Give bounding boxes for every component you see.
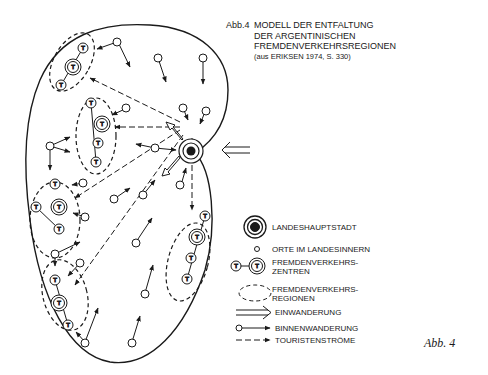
interior-towns bbox=[46, 38, 210, 347]
legend-label-internal-migration: BINNENWANDERUNG bbox=[275, 324, 358, 333]
legend-label-towns: ORTE IM LANDESINNERN bbox=[272, 245, 370, 254]
title-line-2: DER ARGENTINISCHEN bbox=[254, 31, 396, 42]
legend-symbols bbox=[231, 216, 271, 340]
title-source: (aus ERIKSEN 1974, S. 330) bbox=[254, 52, 396, 63]
legend-label-capital: LANDESHAUPTSTADT bbox=[272, 223, 357, 232]
legend-label-centres: FREMDENVERKEHRS- ZENTREN bbox=[272, 258, 358, 276]
legend-label-immigration: EINWANDERUNG bbox=[275, 308, 341, 317]
figure-number: Abb.4 bbox=[226, 20, 250, 31]
capital-city bbox=[179, 139, 203, 163]
legend-label-tourist-flows: TOURISTENSTRÖME bbox=[275, 336, 355, 345]
figure-caption: Abb. 4 bbox=[424, 336, 455, 351]
title-line-3: FREMDENVERKEHRSREGIONEN bbox=[254, 41, 396, 52]
tourist-flows bbox=[75, 78, 192, 285]
country-outline bbox=[26, 25, 228, 363]
diagram-canvas: T T bbox=[0, 0, 488, 375]
title-line-1: MODELL DER ENTFALTUNG bbox=[254, 20, 396, 31]
immigration-arrow bbox=[222, 142, 250, 158]
legend-label-regions: FREMDENVERKEHRS- REGIONEN bbox=[272, 285, 358, 303]
